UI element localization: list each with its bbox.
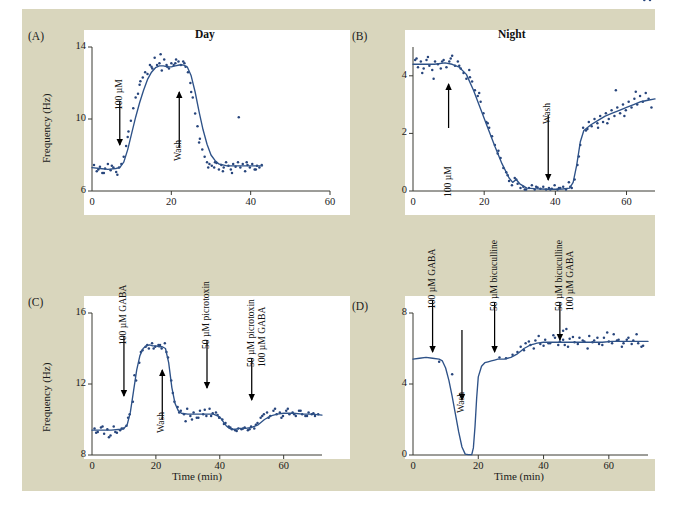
y-tick-label: 8 <box>60 448 86 459</box>
y-tick-label: 16 <box>60 306 86 317</box>
annotation-label: 100 µM GABA <box>564 251 575 311</box>
annotation-label: 50 µM picrotoxin <box>200 281 211 349</box>
panel-d-svg <box>0 0 677 510</box>
annotation-label: Wash <box>541 103 552 124</box>
x-tick-label: 60 <box>270 460 298 471</box>
x-tick-label: 60 <box>316 196 344 207</box>
annotation-label: 100 µM GABA <box>117 285 128 345</box>
y-tick-label: 0 <box>381 448 407 459</box>
annotation-label: 50 µM bicuculline <box>553 240 564 311</box>
y-tick-label: 10 <box>60 112 86 123</box>
x-tick-label: 0 <box>78 196 106 207</box>
x-tick-label: 0 <box>399 460 427 471</box>
annotation-label: 100 µM <box>442 166 453 197</box>
y-tick-label: 4 <box>381 69 407 80</box>
x-tick-label: 40 <box>237 196 265 207</box>
y-tick-label: 2 <box>381 126 407 137</box>
x-tick-label: 40 <box>530 460 558 471</box>
y-tick-label: 8 <box>381 306 407 317</box>
x-tick-label: 20 <box>470 196 498 207</box>
x-tick-label: 60 <box>613 196 641 207</box>
x-tick-label: 20 <box>157 196 185 207</box>
y-tick-label: 12 <box>60 377 86 388</box>
annotation-label: 100 µM <box>113 79 124 110</box>
annotation-label: Wash <box>172 140 183 161</box>
annotation-label: Wash <box>455 392 466 413</box>
x-tick-label: 0 <box>78 460 106 471</box>
figure-root: (A) Day Frequency (Hz) (B) Night (C) Fre… <box>0 0 677 510</box>
y-tick-label: 14 <box>60 40 86 51</box>
y-tick-label: 0 <box>381 184 407 195</box>
y-tick-label: 4 <box>381 377 407 388</box>
x-tick-label: 40 <box>541 196 569 207</box>
x-tick-label: 40 <box>206 460 234 471</box>
y-tick-label: 6 <box>60 184 86 195</box>
x-tick-label: 0 <box>399 196 427 207</box>
annotation-label: 100 µM GABA <box>256 307 267 367</box>
x-tick-label: 20 <box>464 460 492 471</box>
x-tick-label: 60 <box>595 460 623 471</box>
annotation-label: 100 µM GABA <box>426 249 437 309</box>
x-tick-label: 20 <box>142 460 170 471</box>
annotation-label: 50 µM bicuculline <box>488 240 499 311</box>
annotation-label: Wash <box>155 412 166 433</box>
annotation-label: 50 µM picrotoxin <box>245 299 256 367</box>
